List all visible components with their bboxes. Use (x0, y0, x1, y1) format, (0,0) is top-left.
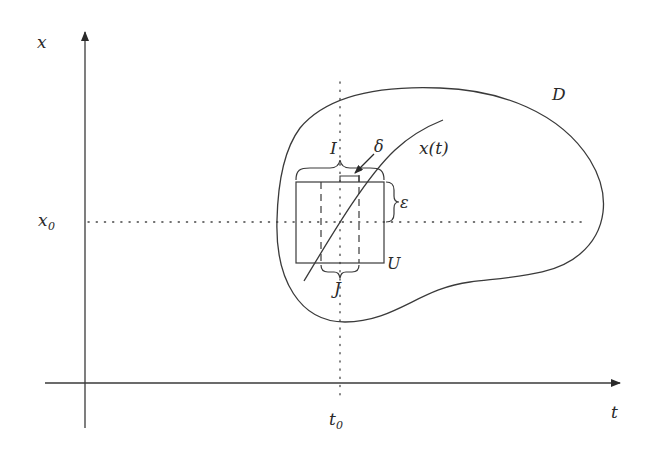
interval-i-label: I (329, 138, 337, 158)
epsilon-label: ε (400, 193, 409, 212)
domain-d-label: D (551, 84, 566, 104)
box-u-label: U (387, 254, 401, 273)
delta-label: δ (374, 137, 384, 156)
svg-text:0: 0 (48, 220, 55, 233)
x0-tick-label: x 0 (38, 210, 55, 233)
axes (45, 32, 620, 428)
svg-text:0: 0 (336, 419, 343, 432)
svg-text:t: t (329, 409, 336, 429)
t0-tick-label: t 0 (329, 409, 343, 432)
curve-label: x(t) (419, 138, 449, 158)
svg-text:x: x (38, 210, 48, 230)
interval-j-label: J (331, 278, 342, 298)
domain-d-boundary (277, 88, 604, 322)
delta-arrow (355, 154, 374, 173)
t-axis-label: t (611, 402, 618, 422)
x-axis-label: x (37, 32, 47, 52)
delta-bracket (340, 176, 359, 182)
brace-epsilon (386, 182, 399, 222)
neighborhood-diagram: x t x 0 t 0 D U x(t) I δ ε J (0, 0, 650, 455)
